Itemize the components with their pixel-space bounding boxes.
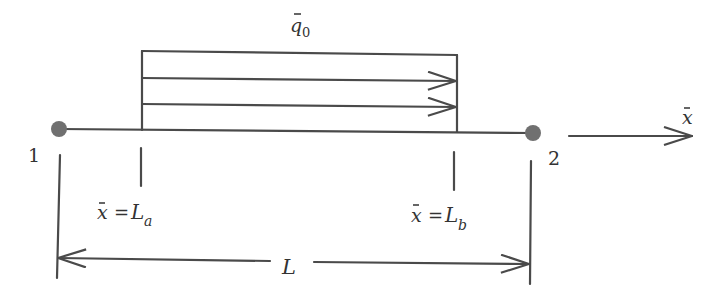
node-2-label: 2 — [548, 147, 560, 169]
dim-ext-right — [530, 161, 531, 284]
end-rhs: L — [444, 203, 458, 227]
end-lhs: x — [411, 204, 422, 226]
start-rhs: L — [130, 200, 144, 224]
start-subscript: a — [144, 213, 152, 229]
start-eq: = — [114, 202, 129, 223]
end-subscript: b — [458, 217, 467, 233]
start-marker-label: x = L a — [97, 200, 152, 229]
axis-label: x — [682, 106, 693, 128]
dim-ext-left — [57, 155, 60, 278]
start-lhs: x — [97, 201, 108, 223]
beam-diagram: q 0 1 2 x x = L a x = L b L — [0, 0, 720, 304]
end-marker-label: x = L b — [411, 203, 467, 233]
node-1-label: 1 — [28, 144, 40, 166]
load-symbol: q — [290, 14, 302, 36]
load-arrow-1 — [142, 78, 456, 81]
node-2-icon — [525, 125, 541, 141]
load-subscript: 0 — [302, 25, 310, 40]
length-label: L — [281, 255, 296, 279]
end-eq: = — [428, 205, 443, 226]
distributed-load — [142, 51, 457, 132]
node-1-icon — [51, 121, 67, 137]
beam-line — [59, 129, 533, 133]
length-arrow-left — [58, 258, 270, 261]
load-label: q 0 — [290, 14, 310, 40]
load-arrow-2 — [142, 104, 456, 107]
load-box-top — [142, 51, 457, 55]
length-arrow-right — [314, 262, 529, 264]
